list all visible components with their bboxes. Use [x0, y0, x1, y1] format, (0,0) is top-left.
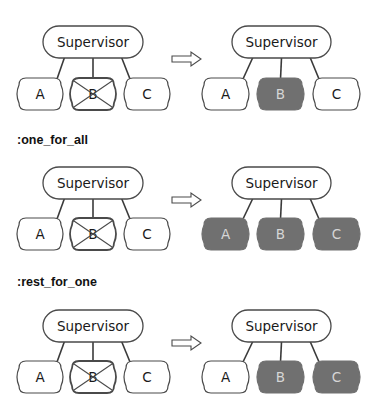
worker-node-label: A [221, 226, 231, 242]
supervision-tree-before: SupervisorABC [17, 167, 170, 250]
worker-node-a-running: A [202, 361, 249, 393]
worker-node-label: B [276, 369, 285, 385]
supervisor-label: Supervisor [57, 175, 130, 191]
supervisor-label: Supervisor [245, 318, 318, 334]
worker-node-label: A [35, 369, 45, 385]
connector-line [243, 56, 254, 79]
worker-node-c-restarted: C [313, 361, 360, 393]
worker-node-label: C [142, 226, 151, 242]
worker-node-label: C [142, 86, 151, 102]
worker-node-label: C [332, 369, 341, 385]
worker-node-b-restarted: B [257, 218, 304, 250]
worker-node-c-restarted: C [313, 218, 360, 250]
worker-node-a-running: A [17, 78, 63, 110]
supervisor-label: Supervisor [57, 318, 130, 334]
worker-node-b-restarted: B [257, 361, 304, 393]
worker-node-b-crashed: B [70, 218, 116, 250]
connector-line [310, 197, 320, 219]
worker-node-label: C [332, 86, 341, 102]
worker-node-label: B [276, 86, 285, 102]
strategy-label-rest-for-one: :rest_for_one [17, 275, 97, 289]
connector-line [57, 197, 65, 219]
supervisor-label: Supervisor [245, 34, 318, 50]
worker-node-c-running: C [124, 78, 170, 110]
worker-node-label: A [35, 226, 45, 242]
worker-node-a-running: A [202, 78, 249, 110]
connector-line [121, 56, 130, 79]
worker-node-label: A [35, 86, 45, 102]
worker-node-c-running: C [124, 361, 170, 393]
transition-arrow-icon [172, 52, 201, 66]
connector-line [281, 58, 282, 79]
strategy-row-0: SupervisorABCSupervisorABC [17, 26, 360, 110]
connector-line [57, 56, 65, 79]
worker-node-label: A [221, 369, 231, 385]
strategy-row-1: SupervisorABCSupervisorABC [17, 167, 360, 250]
transition-arrow-icon [172, 336, 201, 350]
connector-line [243, 197, 254, 219]
supervisor-label: Supervisor [57, 34, 130, 50]
supervision-tree-before: SupervisorABC [17, 310, 170, 393]
supervisor-label: Supervisor [245, 175, 318, 191]
worker-node-label: B [276, 226, 285, 242]
connector-line [281, 342, 282, 362]
supervision-tree-after: SupervisorABC [202, 167, 360, 250]
worker-node-label: C [332, 226, 341, 242]
worker-node-b-restarted: B [257, 78, 304, 110]
worker-node-label: C [142, 369, 151, 385]
strategy-label-one-for-all: :one_for_all [17, 133, 88, 147]
worker-node-c-running: C [124, 218, 170, 250]
worker-node-c-running: C [313, 78, 360, 110]
connector-line [57, 340, 65, 362]
connector-line [281, 199, 282, 219]
connector-line [121, 340, 130, 362]
connector-line [121, 197, 130, 219]
connector-line [310, 340, 320, 362]
transition-arrow-icon [172, 193, 201, 207]
worker-node-b-crashed: B [70, 78, 116, 110]
worker-node-label: A [221, 86, 231, 102]
supervision-tree-before: SupervisorABC [17, 26, 170, 110]
connector-line [243, 340, 254, 362]
diagram-canvas: SupervisorABCSupervisorABCSupervisorABCS… [0, 0, 374, 398]
worker-node-a-running: A [17, 361, 63, 393]
worker-node-a-restarted: A [202, 218, 249, 250]
supervision-tree-after: SupervisorABC [202, 26, 360, 110]
worker-node-a-running: A [17, 218, 63, 250]
strategy-row-2: SupervisorABCSupervisorABC [17, 310, 360, 393]
connector-line [310, 56, 320, 79]
worker-node-b-crashed: B [70, 361, 116, 393]
supervision-tree-after: SupervisorABC [202, 310, 360, 393]
